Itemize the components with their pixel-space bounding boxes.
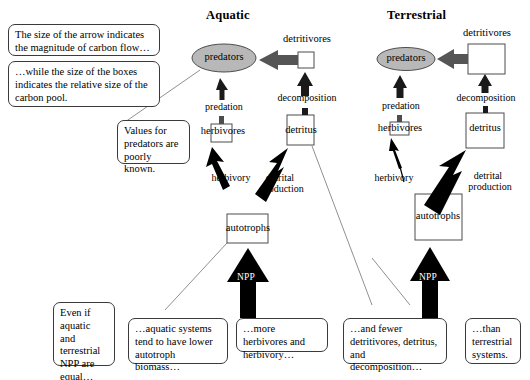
aquatic-detritivores-node[interactable] [298, 52, 314, 68]
terrestrial-production-label: production [462, 181, 518, 192]
column-title-terrestrial: Terrestrial [387, 8, 446, 23]
aquatic-herbivory-label: herbivory [205, 172, 257, 183]
callout-box-size-note[interactable]: …while the size of the boxes indicates t… [8, 61, 160, 107]
aquatic-herbivores-label: herbivores [195, 125, 251, 136]
connector-aquatic-detritus-note [312, 146, 372, 305]
terrestrial-autotrophs-label: autotrophs [412, 210, 464, 221]
callout-more-herbivores-note[interactable]: …more herbivores and herbivory… [236, 318, 328, 352]
aquatic-autotrophs-label: autotrophs [222, 222, 274, 233]
terrestrial-detritivory-arrow [437, 49, 468, 69]
connector-terrestrial-note [372, 258, 410, 305]
callout-than-terrestrial-note[interactable]: …than terrestrial systems. [465, 318, 521, 364]
terrestrial-detritivores-label: detritivores [456, 27, 518, 38]
callout-fewer-detritivores-note[interactable]: …and fewer detritivores, detritus, and d… [343, 318, 447, 364]
aquatic-predation-label: predation [198, 101, 250, 112]
aquatic-decomposition-label: decomposition [268, 92, 346, 103]
terrestrial-npp-arrow [410, 247, 450, 318]
terrestrial-decomposition-label: decomposition [447, 92, 525, 103]
connector-aquatic-autotroph-note [165, 243, 227, 310]
terrestrial-herbivores-label: herbivores [372, 122, 428, 133]
aquatic-predators-label: predators [196, 51, 252, 62]
terrestrial-npp-label: NPP [419, 272, 437, 282]
diagram-canvas: Aquatic Terrestrial predators detritivor… [0, 0, 530, 380]
aquatic-herbivory-arrow [206, 147, 230, 190]
terrestrial-predators-label: predators [379, 52, 433, 63]
terrestrial-detritivores-node[interactable] [468, 44, 505, 74]
aquatic-detrital-label: detrital [258, 172, 302, 183]
aquatic-npp-label: NPP [237, 272, 255, 282]
terrestrial-predation-arrow [393, 75, 407, 122]
terrestrial-predation-label: predation [375, 100, 427, 111]
terrestrial-herbivory-label: herbivory [368, 172, 420, 183]
terrestrial-detrital-label: detrital [466, 170, 510, 181]
callout-predator-values-note[interactable]: Values for predators are poorly known. [117, 120, 190, 164]
aquatic-npp-arrow [227, 248, 269, 318]
aquatic-detritus-label: detritus [280, 124, 322, 135]
callout-arrow-size-note[interactable]: The size of the arrow indicates the magn… [8, 24, 160, 56]
aquatic-production-label: production [256, 183, 308, 194]
callout-autotroph-biomass-note[interactable]: …aquatic systems tend to have lower auto… [128, 318, 228, 364]
column-title-aquatic: Aquatic [206, 8, 250, 23]
callout-npp-equal-note[interactable]: Even if aquatic and terrestrial NPP are … [53, 302, 115, 366]
aquatic-detritivory-arrow [259, 50, 298, 70]
aquatic-detritivores-label: detritivores [277, 33, 337, 44]
terrestrial-detritus-label: detritus [464, 122, 506, 133]
